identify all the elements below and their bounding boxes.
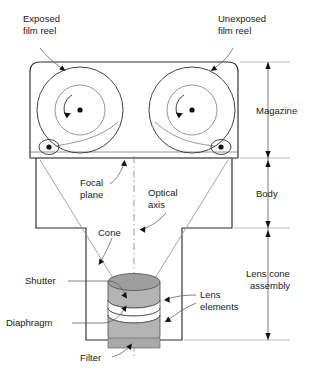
magazine-outline [30, 62, 238, 158]
camera-cross-section-diagram: Exposed film reel Unexposed film reel Fo… [0, 0, 318, 369]
cone-leader [100, 238, 112, 262]
cone-left-wall [40, 160, 116, 283]
cone-right-wall [152, 160, 228, 283]
label-exposed-film-reel-line2: film reel [23, 25, 56, 36]
label-lens-elements-line2: elements [200, 301, 239, 312]
unexposed-reel-hub [189, 107, 194, 112]
focal-plane-leader-arrowhead [121, 160, 127, 166]
exposed-reel-leader [40, 48, 64, 70]
optical-axis-leader [143, 213, 166, 229]
label-dimension-body: Body [256, 188, 278, 199]
label-unexposed-film-reel-line2: film reel [218, 25, 251, 36]
label-dimension-magazine: Magazine [256, 105, 297, 116]
diagram-canvas: Exposed film reel Unexposed film reel Fo… [0, 0, 318, 369]
dim-arrow-lenscone-bottom [265, 333, 270, 340]
label-filter: Filter [80, 352, 101, 363]
focal-plane-leader [110, 163, 124, 184]
dim-arrow-lenscone-top [265, 230, 270, 237]
left-roller-hub [46, 144, 51, 149]
exposed-reel-leader-arrowhead [59, 65, 65, 71]
dim-arrow-magazine-bottom [265, 151, 270, 158]
lens-elements-leader-lower-arrowhead [165, 316, 171, 322]
dim-arrow-body-bottom [265, 221, 270, 228]
dim-arrow-body-top [265, 160, 270, 167]
unexposed-reel-leader [212, 48, 233, 70]
label-shutter: Shutter [25, 275, 56, 286]
label-optical-axis-line1: Optical [148, 187, 178, 198]
exposed-reel-hub [77, 107, 82, 112]
label-lens-elements-line1: Lens [200, 289, 221, 300]
right-roller-hub [218, 144, 223, 149]
label-dimension-lens-cone-assembly-line2: assembly [250, 280, 290, 291]
label-focal-plane-line1: Focal [80, 177, 103, 188]
label-cone: Cone [98, 227, 121, 238]
label-unexposed-film-reel-line1: Unexposed [218, 13, 266, 24]
lens-elements-leader-upper-arrowhead [164, 296, 170, 302]
optical-axis-leader-arrowhead [140, 226, 146, 232]
dim-arrow-magazine-top [265, 62, 270, 69]
filter-plate [108, 338, 160, 348]
label-optical-axis-line2: axis [148, 199, 165, 210]
exposed-reel-rotation-arrowhead [64, 113, 71, 118]
label-focal-plane-line2: plane [80, 189, 103, 200]
lens-element-upper-top-face [108, 274, 160, 291]
unexposed-reel-rotation-arrowhead [176, 113, 183, 118]
label-diaphragm: Diaphragm [6, 317, 53, 328]
label-dimension-lens-cone-assembly-line1: Lens cone [246, 268, 290, 279]
label-exposed-film-reel-line1: Exposed [23, 13, 60, 24]
